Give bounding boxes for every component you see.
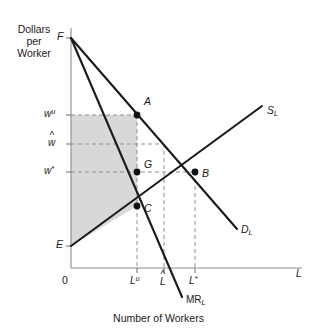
point-B-dot	[192, 169, 199, 176]
supply-curve-label: SL	[267, 105, 278, 117]
origin-label: 0	[62, 275, 68, 287]
demand-curve-label-sub: L	[249, 228, 253, 237]
x-tick-label-L-union-base: L	[130, 275, 136, 286]
y-axis-title-line2: per	[4, 36, 64, 48]
x-tick-label-L-star-base: L	[189, 275, 195, 286]
y-axis-title-line3: Worker	[4, 48, 64, 60]
hat-accent-icon: ^	[161, 269, 166, 280]
marginal-revenue-curve-label: MRL	[186, 294, 206, 305]
point-label-B: B	[202, 168, 209, 180]
demand-curve-label: DL	[241, 224, 253, 236]
x-tick-label-L-hat: ^L	[160, 276, 166, 287]
hat-accent-icon: ^	[49, 130, 54, 141]
point-label-F: F	[57, 31, 63, 43]
economics-labor-market-diagram: Dollars per Worker wu ^w w* Lu ^L L* 0 L…	[0, 0, 317, 333]
L-hat-group: ^L	[160, 276, 166, 287]
x-tick-label-L-star: L*	[189, 275, 197, 286]
x-tick-label-L-union-sup: u	[136, 274, 140, 283]
x-axis-symbol-text: L	[296, 268, 302, 279]
point-G-dot	[134, 169, 141, 176]
y-axis-title: Dollars per Worker	[4, 24, 64, 59]
union-rent-area	[71, 115, 137, 246]
x-axis-symbol: L	[296, 268, 302, 279]
point-label-G: G	[144, 159, 152, 171]
y-axis-title-line1: Dollars	[4, 24, 64, 36]
point-label-A: A	[144, 96, 151, 108]
point-C-dot	[134, 203, 141, 210]
point-label-C: C	[144, 203, 152, 215]
y-tick-label-w-hat: ^w	[48, 137, 55, 148]
marginal-revenue-curve-label-text: MR	[186, 294, 202, 305]
w-hat-group: ^w	[48, 137, 55, 148]
x-tick-label-L-union: Lu	[130, 275, 140, 286]
demand-curve-label-text: D	[241, 223, 249, 235]
y-tick-label-w-union-sup: u	[51, 107, 55, 116]
x-axis-caption: Number of Workers	[0, 313, 317, 325]
supply-curve-label-sub: L	[274, 109, 278, 118]
y-tick-label-w-star-sup: *	[51, 164, 54, 173]
point-label-E: E	[56, 239, 63, 251]
x-tick-label-L-star-sup: *	[195, 274, 198, 283]
y-tick-label-w-star: w*	[44, 165, 54, 176]
marginal-revenue-curve-label-sub: L	[202, 298, 206, 307]
y-tick-label-w-union: wu	[44, 108, 55, 119]
point-A-dot	[134, 112, 141, 119]
supply-curve-label-text: S	[267, 104, 274, 116]
